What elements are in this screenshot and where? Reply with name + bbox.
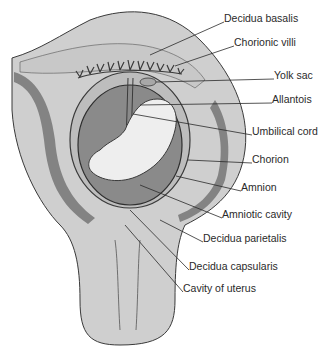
label-chorionic-villi: Chorionic villi (234, 36, 296, 48)
label-decidua-basalis: Decidua basalis (224, 12, 298, 24)
yolk-sac (140, 78, 156, 86)
label-yolk-sac: Yolk sac (274, 69, 313, 81)
label-allantois: Allantois (272, 93, 312, 105)
label-cavity-of-uterus: Cavity of uterus (183, 282, 256, 294)
label-amniotic-cavity: Amniotic cavity (222, 208, 292, 220)
uterus-diagram: Decidua basalis Chorionic villi Yolk sac… (0, 0, 328, 351)
label-amnion: Amnion (241, 181, 277, 193)
label-decidua-parietalis: Decidua parietalis (203, 232, 286, 244)
uterus-illustration (0, 0, 328, 351)
label-chorion: Chorion (252, 153, 289, 165)
label-decidua-capsularis: Decidua capsularis (189, 260, 278, 272)
label-umbilical-cord: Umbilical cord (252, 125, 318, 137)
